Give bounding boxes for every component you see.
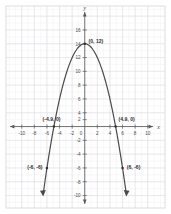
x-tick-label: 8 (134, 131, 137, 136)
plot-background (6, 6, 165, 208)
point-x-intercept-left (53, 125, 56, 128)
x-tick-label: -6 (45, 131, 50, 136)
y-tick-label: 4 (78, 111, 81, 116)
x-tick-label: -10 (18, 131, 25, 136)
x-tick-label: -2 (70, 131, 75, 136)
x-tick-label: 2 (96, 131, 99, 136)
point-lower-right (121, 167, 124, 170)
y-tick-label: 16 (75, 28, 81, 33)
x-axis-label: x (156, 124, 160, 130)
x-tick-label: -8 (32, 131, 37, 136)
y-tick-label: -8 (77, 180, 82, 185)
point-x-intercept-right (114, 125, 117, 128)
label-point-lower-left: (-6, -6) (27, 164, 43, 170)
y-axis-label: y (83, 5, 87, 11)
x-tick-label: 4 (109, 131, 112, 136)
x-tick-label: -4 (58, 131, 63, 136)
graph-figure: -10 -8 -6 -4 -2 0 2 4 6 8 10 16 14 12 10… (0, 0, 171, 214)
y-tick-label: 6 (78, 97, 81, 102)
label-vertex: (0, 12) (89, 38, 104, 44)
point-lower-left (46, 167, 49, 170)
y-tick-label: 2 (78, 117, 81, 122)
label-point-lower-right: (6, -6) (127, 164, 141, 170)
y-tick-label: -10 (74, 193, 81, 198)
label-x-intercept-left: (-4.9, 0) (43, 116, 61, 122)
y-tick-label: -6 (77, 166, 82, 171)
y-tick-label: -4 (77, 152, 82, 157)
y-tick-label: 8 (78, 83, 81, 88)
y-tick-label: -2 (77, 138, 82, 143)
x-tick-label: 6 (121, 131, 124, 136)
y-tick-label: 12 (75, 55, 81, 60)
label-x-intercept-right: (4.9, 0) (119, 116, 135, 122)
parabola-graph: -10 -8 -6 -4 -2 0 2 4 6 8 10 16 14 12 10… (0, 0, 171, 214)
y-tick-label: 10 (75, 69, 81, 74)
x-tick-label: 10 (145, 131, 151, 136)
point-vertex (84, 43, 87, 46)
x-tick-label-origin: 0 (80, 131, 83, 136)
